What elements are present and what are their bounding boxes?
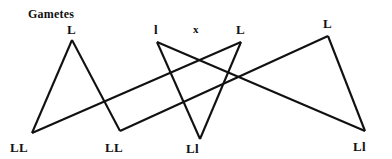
gametes-cross-diagram: Gametes L l x L L LL LL Ll Ll	[0, 0, 392, 159]
edge-offspring1-to-gameteL3	[32, 42, 241, 133]
edge-gameteL1-to-offspring2	[72, 40, 120, 131]
gamete-label-mid-L: L	[236, 23, 245, 36]
gamete-label-right-L: L	[323, 17, 332, 30]
offspring-genotype-4: Ll	[353, 140, 366, 153]
offspring-genotype-2: LL	[105, 141, 123, 154]
cross-symbol: x	[193, 24, 199, 35]
edge-gamete-l2-to-offspring4	[157, 42, 365, 131]
gametes-heading: Gametes	[28, 8, 74, 20]
gamete-label-left-L: L	[67, 23, 76, 36]
offspring-genotype-1: LL	[10, 141, 28, 154]
offspring-genotype-3: Ll	[186, 142, 199, 155]
gamete-label-mid-l: l	[154, 23, 158, 36]
